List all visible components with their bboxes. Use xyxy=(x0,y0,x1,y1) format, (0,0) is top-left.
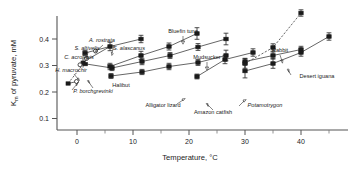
y-tick-label-1: 0.2 xyxy=(39,89,49,96)
x-tick-label-1: 10 xyxy=(129,138,137,145)
label-h-macrochir: H. macrochir xyxy=(55,67,88,73)
x-axis xyxy=(57,130,348,135)
label-mudsucker: Mudsucker xyxy=(193,54,220,60)
svg-text:Km of pyruvate, mM: Km of pyruvate, mM xyxy=(9,40,19,106)
label-alligator-lizard: Alligator lizard xyxy=(145,102,180,108)
series-desert-iguana xyxy=(243,33,332,78)
chart-canvas: 0.1 0.2 0.3 0.4 0 10 20 30 40 Temperatur… xyxy=(0,0,352,178)
label-p-borchgrevinki: P. borchgrevinki xyxy=(73,88,113,94)
label-amazon-catfish: Amazon catfish xyxy=(194,109,232,115)
y-axis xyxy=(52,16,57,130)
label-a-rostrata: A. rostrata xyxy=(88,37,115,43)
x-tick-label-0: 0 xyxy=(75,138,79,145)
label-desert-iguana: Desert iguana xyxy=(300,73,336,79)
x-tick-label-3: 30 xyxy=(241,138,249,145)
chart-figure: 0.1 0.2 0.3 0.4 0 10 20 30 40 Temperatur… xyxy=(0,0,352,178)
annotation-leaders xyxy=(72,36,291,110)
label-potamotrygon: Potamotrygon xyxy=(248,102,283,108)
x-tick-label-2: 20 xyxy=(185,138,193,145)
label-bluefin-tuna: Bluefin tuna xyxy=(168,28,198,34)
y-axis-title: Km of pyruvate, mM xyxy=(9,40,19,106)
label-rabbit: Rabbit xyxy=(272,47,289,53)
trend-desert-iguana xyxy=(245,37,329,72)
label-halibut: Halibut xyxy=(112,82,130,88)
x-tick-labels: 0 10 20 30 40 xyxy=(75,138,305,145)
x-tick-label-4: 40 xyxy=(297,138,305,145)
label-s-altivelis: S. altivelis xyxy=(74,45,99,51)
x-axis-title: Temperature, °C xyxy=(162,153,218,162)
y-tick-label-3: 0.4 xyxy=(39,36,49,43)
label-s-alascanus: S. alascanus xyxy=(113,45,145,51)
annotation-labels: A. rostrata S. altivelis S. alascanus C.… xyxy=(55,28,335,115)
y-tick-labels: 0.1 0.2 0.3 0.4 xyxy=(39,36,49,123)
y-tick-label-0: 0.1 xyxy=(39,115,49,122)
label-c-acrolepis: C. acrolepis xyxy=(64,54,94,60)
y-axis-title-rest: of pyruvate, mM xyxy=(9,40,18,97)
y-tick-label-2: 0.3 xyxy=(39,62,49,69)
